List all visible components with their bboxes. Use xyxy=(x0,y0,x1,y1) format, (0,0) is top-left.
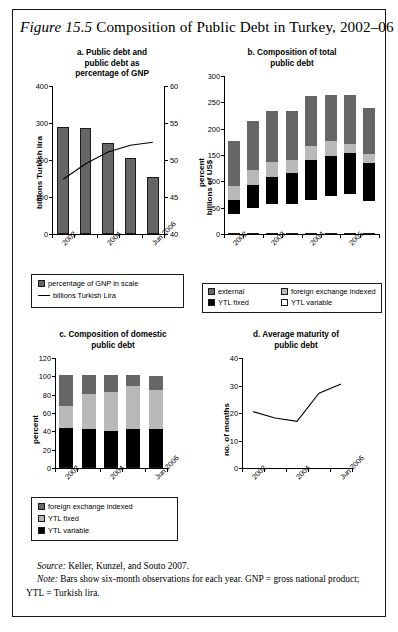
x-tick xyxy=(242,469,243,472)
y-tick-label: 0 xyxy=(27,464,51,473)
y-tick xyxy=(221,155,224,156)
y-axis xyxy=(55,358,56,469)
panel-c-title: c. Composition of domestic public debt xyxy=(24,330,202,351)
y-tick-right xyxy=(165,160,168,161)
panel-a-title-line2: public debt as xyxy=(32,59,192,70)
legend-label: YTL variable xyxy=(48,526,89,535)
y-tick xyxy=(52,450,55,451)
bar-segment xyxy=(104,391,118,431)
bar-segment xyxy=(228,213,240,233)
bar-segment xyxy=(228,141,240,186)
x-tick xyxy=(286,469,287,472)
panel-a-plot: 0100200300400404550556020022004Jun 2006 xyxy=(52,86,164,234)
legend-item: YTL variable xyxy=(281,298,332,307)
x-tick xyxy=(379,235,380,238)
bar-segment xyxy=(305,96,317,146)
bar-segment xyxy=(266,161,278,176)
y-tick-label: 0 xyxy=(24,230,48,239)
legend-swatch-icon xyxy=(208,288,215,295)
bar-segment xyxy=(82,428,96,467)
y-tick xyxy=(52,413,55,414)
x-tick xyxy=(55,469,56,472)
legend-item: external xyxy=(208,287,274,296)
bar-segment xyxy=(247,169,259,184)
y-tick-label: 150 xyxy=(196,151,220,160)
y-tick-label: 40 xyxy=(170,230,194,239)
y-tick-label: 0 xyxy=(196,230,220,239)
y-tick-label: 200 xyxy=(24,156,48,165)
panel-a-title-line3: percentage of GNP xyxy=(32,69,192,80)
bar xyxy=(286,112,298,234)
y-axis xyxy=(224,76,225,235)
bar-segment xyxy=(363,200,375,233)
y-tick-label: 20 xyxy=(214,409,238,418)
x-tick xyxy=(100,469,101,472)
x-tick xyxy=(302,235,303,238)
figure-page: Figure 15.5 Composition of Public Debt i… xyxy=(0,0,398,632)
source-line: Source: Keller, Kunzel, and Souto 2007. xyxy=(26,560,374,573)
panel-a-legend: percentage of GNP in scale billions Turk… xyxy=(31,274,184,308)
panel-c-plot: 02040608010012020022004Jun 2006 xyxy=(55,358,167,468)
legend-item: YTL fixed xyxy=(38,514,171,523)
bar-segment xyxy=(266,203,278,233)
y-tick-label: 100 xyxy=(27,372,51,381)
bar-segment xyxy=(286,172,298,204)
figure-notes: Source: Keller, Kunzel, and Souto 2007. … xyxy=(26,560,374,600)
bar-segment xyxy=(286,159,298,173)
y-tick-label: 80 xyxy=(27,390,51,399)
y-tick-label: 200 xyxy=(196,124,220,133)
y-tick-label: 400 xyxy=(24,82,48,91)
panel-b: b. Composition of total public debt bill… xyxy=(198,48,384,288)
bar xyxy=(149,377,163,468)
panel-d-title: d. Average maturity of public debt xyxy=(208,330,384,351)
bar-segment xyxy=(228,199,240,214)
legend-line-icon xyxy=(38,295,50,296)
figure-label: Figure 15.5 xyxy=(20,18,92,35)
bar xyxy=(59,376,73,468)
y-tick-label: 60 xyxy=(27,409,51,418)
panel-d: d. Average maturity of public debt no. o… xyxy=(208,330,384,510)
x-tick xyxy=(340,235,341,238)
bar-segment xyxy=(325,140,337,155)
y-tick-label: 10 xyxy=(214,436,238,445)
bar xyxy=(82,376,96,468)
panel-c-legend: foreign exchange indexed YTL fixed YTL v… xyxy=(31,497,178,541)
y-tick-label: 40 xyxy=(214,354,238,363)
legend-item: billions Turkish Lira xyxy=(38,291,177,300)
legend-label: YTL variable xyxy=(291,298,332,307)
bar-segment xyxy=(228,185,240,201)
panel-b-plot: 0501001502002503002002200320042005 xyxy=(224,76,379,234)
y-tick xyxy=(221,181,224,182)
y-tick xyxy=(221,76,224,77)
bar-segment xyxy=(104,375,118,392)
line-series xyxy=(242,358,352,468)
note-text: Bars show six-month observations for eac… xyxy=(26,574,359,597)
line-series xyxy=(52,86,164,234)
bar-segment xyxy=(305,145,317,160)
bar-segment xyxy=(82,393,96,430)
legend-swatch-icon xyxy=(281,299,288,306)
panel-b-title-line2: public debt xyxy=(206,59,378,70)
panel-a-title-line1: a. Public debt and xyxy=(32,48,192,59)
panel-c-title-line2: public debt xyxy=(24,341,202,352)
legend-item: foreign exchange indexed xyxy=(281,287,376,296)
legend-label: percentage of GNP in scale xyxy=(48,279,138,288)
figure-title-text: Composition of Public Debt in Turkey, 20… xyxy=(96,18,394,35)
y-tick-right xyxy=(165,123,168,124)
panel-c-title-line1: c. Composition of domestic xyxy=(24,330,202,341)
legend-label: billions Turkish Lira xyxy=(53,291,116,300)
y-tick-label: 50 xyxy=(196,203,220,212)
y-tick-label: 100 xyxy=(196,177,220,186)
panel-a-ylabel: billions Turkish lira xyxy=(35,125,44,221)
legend-item: foreign exchange indexed xyxy=(38,502,171,511)
bar-segment xyxy=(344,152,356,194)
bar-segment xyxy=(266,176,278,204)
bar xyxy=(228,142,240,234)
bar xyxy=(104,376,118,468)
bar xyxy=(247,122,259,234)
legend-swatch-icon xyxy=(38,503,45,510)
y-tick-label: 30 xyxy=(214,381,238,390)
y-tick-label: 55 xyxy=(170,119,194,128)
y-tick xyxy=(221,208,224,209)
y-tick-label: 250 xyxy=(196,98,220,107)
